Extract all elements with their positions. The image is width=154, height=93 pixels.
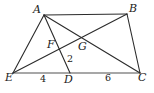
segment-AE <box>13 15 44 73</box>
vertex-label-G: G <box>78 41 87 52</box>
vertex-label-E: E <box>5 72 13 83</box>
geometry-figure: A B F G E D C 4 6 2 <box>0 0 154 93</box>
segment-EB <box>13 14 127 73</box>
measure-ED: 4 <box>40 74 46 84</box>
vertex-label-D: D <box>64 74 73 85</box>
segment-AB <box>44 14 127 15</box>
vertex-label-C: C <box>138 72 146 83</box>
segment-BC <box>127 14 140 73</box>
angle-label-2: 2 <box>67 54 73 64</box>
segment-AC <box>44 15 140 73</box>
vertex-label-F: F <box>47 39 55 50</box>
vertex-label-A: A <box>33 4 41 15</box>
measure-DC: 6 <box>105 73 111 83</box>
vertex-label-B: B <box>129 3 137 14</box>
